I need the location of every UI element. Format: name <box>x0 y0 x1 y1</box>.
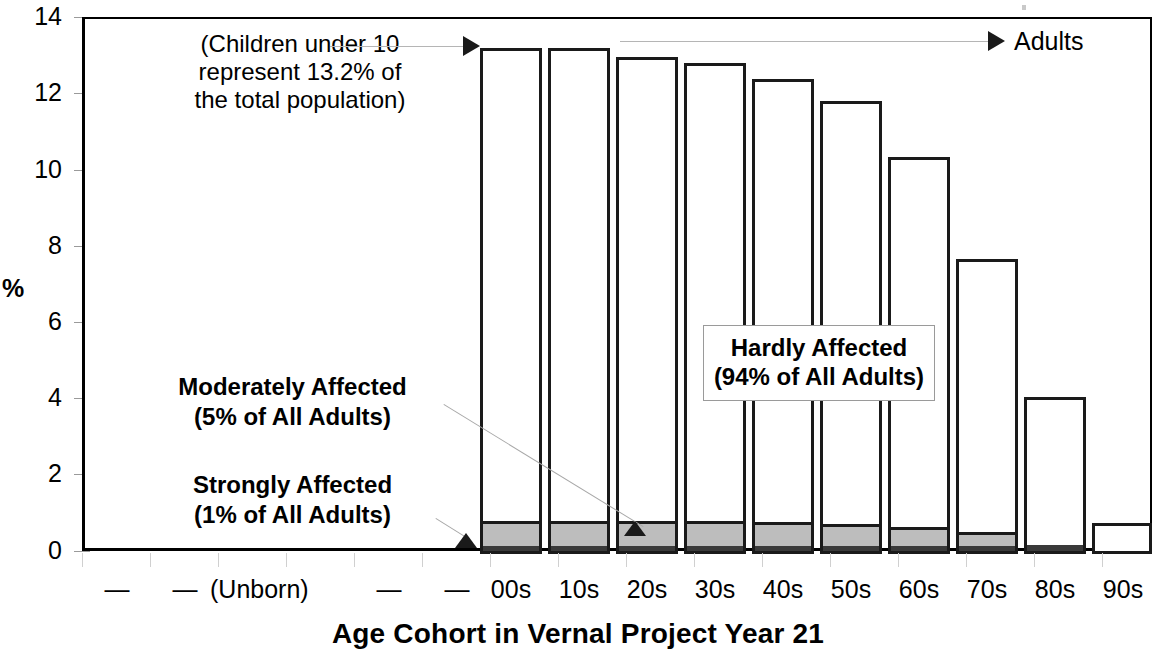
annotation-moderately-line-1: Moderately Affected <box>145 372 440 402</box>
y-axis-title: % <box>2 274 24 303</box>
annotation-strongly-affected: Strongly Affected (1% of All Adults) <box>145 470 440 530</box>
annotation-adults-leader <box>620 41 990 42</box>
x-label-dash-3: — <box>358 575 420 604</box>
y-tick-label-14: 14 <box>2 4 62 29</box>
x-label-dash-1: — <box>86 575 148 604</box>
annotation-children-leader <box>330 46 465 47</box>
y-tick-label-12: 12 <box>2 80 62 105</box>
annotation-children-arrow-icon <box>463 36 480 56</box>
x-label-60s: 60s <box>888 575 950 604</box>
marker-strongly-affected-icon <box>455 533 477 548</box>
annotation-children-line-3: the total population) <box>175 86 425 114</box>
annotation-hardly-line-2: (94% of All Adults) <box>710 362 928 391</box>
annotation-children-line-2: represent 13.2% of <box>175 58 425 86</box>
annotation-adults-label: Adults <box>1014 27 1083 56</box>
y-tick-label-2: 2 <box>2 461 62 486</box>
x-label-unborn: (Unborn) <box>210 575 292 604</box>
x-label-00s: 00s <box>480 575 542 604</box>
x-label-40s: 40s <box>752 575 814 604</box>
annotation-children-line-1: (Children under 10 <box>175 30 425 58</box>
y-tick-label-8: 8 <box>2 233 62 258</box>
x-label-90s: 90s <box>1092 575 1154 604</box>
annotation-children: (Children under 10 represent 13.2% of th… <box>175 30 425 114</box>
x-label-80s: 80s <box>1024 575 1086 604</box>
annotation-moderately-affected: Moderately Affected (5% of All Adults) <box>145 372 440 432</box>
annotation-adults-arrow-icon <box>988 31 1005 51</box>
x-label-70s: 70s <box>956 575 1018 604</box>
x-label-10s: 10s <box>548 575 610 604</box>
x-label-dash-2: — <box>154 575 216 604</box>
x-label-30s: 30s <box>684 575 746 604</box>
annotation-hardly-affected: Hardly Affected (94% of All Adults) <box>703 325 935 401</box>
y-tick-label-10: 10 <box>2 157 62 182</box>
scan-artifact <box>1022 5 1026 10</box>
y-tick-label-0: 0 <box>2 538 62 563</box>
annotation-strongly-line-1: Strongly Affected <box>145 470 440 500</box>
annotation-strongly-line-2: (1% of All Adults) <box>145 500 440 530</box>
chart-canvas: 14 12 10 8 6 4 2 0 % <box>0 0 1156 656</box>
annotation-hardly-line-1: Hardly Affected <box>710 333 928 362</box>
annotation-moderately-line-2: (5% of All Adults) <box>145 402 440 432</box>
marker-moderately-affected-icon <box>624 521 646 536</box>
x-label-dash-4: — <box>426 575 488 604</box>
chart-title: Age Cohort in Vernal Project Year 21 <box>0 618 1156 650</box>
y-tick-label-4: 4 <box>2 385 62 410</box>
y-tick-label-6: 6 <box>2 309 62 334</box>
x-label-50s: 50s <box>820 575 882 604</box>
x-label-20s: 20s <box>616 575 678 604</box>
